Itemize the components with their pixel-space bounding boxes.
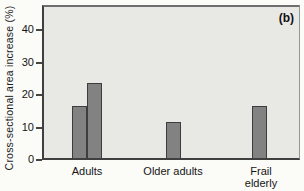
y-tick-label: 20 (10, 88, 34, 101)
y-tick (36, 62, 42, 64)
panel-label: (b) (279, 11, 294, 25)
y-tick-label: 0 (10, 153, 34, 166)
y-tick-label: 10 (10, 121, 34, 134)
figure: Cross-sectional area increase (%) (b) 01… (0, 0, 304, 191)
y-tick (36, 94, 42, 96)
plot-area: (b) (42, 5, 300, 160)
y-tick-label: 40 (10, 23, 34, 36)
bar (72, 106, 87, 158)
bar (252, 106, 267, 158)
category-label: Frail elderly (238, 165, 284, 189)
y-tick (36, 29, 42, 31)
bar (166, 122, 181, 158)
y-tick (36, 159, 42, 161)
bar (87, 83, 102, 158)
y-tick-label: 30 (10, 56, 34, 69)
y-tick (36, 127, 42, 129)
category-label: Older adults (128, 165, 218, 177)
category-label: Adults (57, 165, 117, 177)
